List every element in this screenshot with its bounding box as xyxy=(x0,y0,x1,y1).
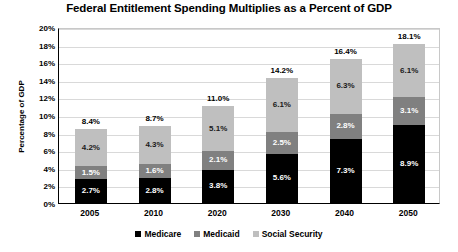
legend-label: Social Security xyxy=(262,230,323,239)
x-axis-tick-label: 2010 xyxy=(144,208,163,218)
bar-stack: 2.8%1.6%4.3% xyxy=(139,126,171,203)
bar-stack: 8.9%3.1%6.1% xyxy=(393,44,425,203)
y-axis-tick-label: 0% xyxy=(43,200,55,209)
bar-segment-social-security[interactable]: 6.1% xyxy=(393,44,425,98)
bar-stack: 7.3%2.8%6.3% xyxy=(330,59,362,203)
y-axis-tick-label: 8% xyxy=(43,129,55,138)
x-axis-tick-label: 2030 xyxy=(271,208,290,218)
bar-segment-value-label: 8.9% xyxy=(400,160,418,168)
y-axis-tick-label: 16% xyxy=(39,59,55,68)
y-axis-tick-label: 4% xyxy=(43,164,55,173)
y-axis-tick-label: 14% xyxy=(39,76,55,85)
bar-series-group: 2.7%1.5%4.2%8.4%2.8%1.6%4.3%8.7%3.8%2.1%… xyxy=(59,29,439,203)
bar-total-label: 14.2% xyxy=(270,67,293,75)
bar-segment-value-label: 7.3% xyxy=(336,167,354,175)
bar-segment-value-label: 2.1% xyxy=(209,156,227,164)
bar-segment-medicare[interactable]: 7.3% xyxy=(330,139,362,203)
y-axis-tick-label: 10% xyxy=(39,112,55,121)
x-axis-tick-label: 2005 xyxy=(80,208,99,218)
bar-column[interactable]: 2.8%1.6%4.3%8.7% xyxy=(139,29,171,203)
bar-segment-social-security[interactable]: 6.3% xyxy=(330,59,362,114)
bar-segment-value-label: 5.6% xyxy=(273,174,291,182)
bar-total-label: 8.4% xyxy=(82,118,100,126)
bar-segment-value-label: 1.5% xyxy=(82,169,100,177)
bar-segment-value-label: 2.8% xyxy=(145,187,163,195)
bar-segment-value-label: 2.5% xyxy=(273,139,291,147)
chart-title: Federal Entitlement Spending Multiplies … xyxy=(0,2,458,14)
bar-segment-social-security[interactable]: 4.3% xyxy=(139,126,171,164)
bar-stack: 5.6%2.5%6.1% xyxy=(266,78,298,203)
bar-stack: 2.7%1.5%4.2% xyxy=(75,129,107,203)
legend-swatch-icon xyxy=(135,231,141,237)
bar-segment-medicaid[interactable]: 3.1% xyxy=(393,97,425,124)
legend-item-social-security[interactable]: Social Security xyxy=(253,230,323,239)
plot-area: 2.7%1.5%4.2%8.4%2.8%1.6%4.3%8.7%3.8%2.1%… xyxy=(58,28,440,204)
stacked-bar-chart: Federal Entitlement Spending Multiplies … xyxy=(0,0,458,252)
legend-label: Medicare xyxy=(144,230,181,239)
bar-segment-value-label: 5.1% xyxy=(209,125,227,133)
bar-segment-medicaid[interactable]: 1.5% xyxy=(75,166,107,179)
legend-label: Medicaid xyxy=(203,230,239,239)
bar-column[interactable]: 8.9%3.1%6.1%18.1% xyxy=(393,29,425,203)
y-axis-tick-label: 20% xyxy=(39,24,55,33)
bar-segment-social-security[interactable]: 5.1% xyxy=(202,106,234,151)
x-axis-tick-label: 2020 xyxy=(208,208,227,218)
y-axis-tick-label: 2% xyxy=(43,182,55,191)
bar-segment-medicare[interactable]: 2.7% xyxy=(75,179,107,203)
bar-segment-value-label: 3.1% xyxy=(400,107,418,115)
legend-item-medicaid[interactable]: Medicaid xyxy=(194,230,239,239)
legend-item-medicare[interactable]: Medicare xyxy=(135,230,181,239)
bar-segment-medicaid[interactable]: 2.8% xyxy=(330,114,362,139)
bar-segment-value-label: 3.8% xyxy=(209,182,227,190)
bar-segment-social-security[interactable]: 4.2% xyxy=(75,129,107,166)
bar-segment-social-security[interactable]: 6.1% xyxy=(266,78,298,132)
bar-segment-medicare[interactable]: 5.6% xyxy=(266,154,298,203)
bar-total-label: 11.0% xyxy=(207,95,229,103)
bar-segment-value-label: 2.7% xyxy=(82,187,100,195)
legend-swatch-icon xyxy=(194,231,200,237)
legend-swatch-icon xyxy=(253,231,259,237)
bar-segment-value-label: 4.2% xyxy=(82,144,100,152)
bar-total-label: 16.4% xyxy=(334,48,357,56)
bar-segment-value-label: 4.3% xyxy=(145,141,163,149)
bar-total-label: 8.7% xyxy=(145,115,163,123)
x-axis-tick-labels: 200520102020203020402050 xyxy=(58,208,440,222)
bar-segment-medicaid[interactable]: 2.5% xyxy=(266,132,298,154)
x-axis-tick-label: 2050 xyxy=(399,208,418,218)
bar-segment-value-label: 1.6% xyxy=(145,167,163,175)
bar-segment-medicaid[interactable]: 2.1% xyxy=(202,151,234,169)
y-axis-tick-label: 6% xyxy=(43,147,55,156)
y-axis-tick-label: 18% xyxy=(39,41,55,50)
bar-segment-value-label: 6.1% xyxy=(273,101,291,109)
bar-segment-value-label: 2.8% xyxy=(336,122,354,130)
bar-column[interactable]: 7.3%2.8%6.3%16.4% xyxy=(330,29,362,203)
bar-segment-medicaid[interactable]: 1.6% xyxy=(139,164,171,178)
bar-stack: 3.8%2.1%5.1% xyxy=(202,106,234,203)
bar-segment-value-label: 6.3% xyxy=(336,82,354,90)
y-axis-tick-label: 12% xyxy=(39,94,55,103)
y-axis-title-text: Percentage of GDP xyxy=(17,80,26,152)
bar-total-label: 18.1% xyxy=(398,33,421,41)
bar-column[interactable]: 3.8%2.1%5.1%11.0% xyxy=(202,29,234,203)
bar-column[interactable]: 5.6%2.5%6.1%14.2% xyxy=(266,29,298,203)
bar-segment-medicare[interactable]: 3.8% xyxy=(202,170,234,203)
y-axis-tick-labels: 20%18%16%14%12%10%8%6%4%2%0% xyxy=(26,28,55,204)
bar-segment-medicare[interactable]: 8.9% xyxy=(393,125,425,203)
bar-segment-value-label: 6.1% xyxy=(400,67,418,75)
x-axis-tick-label: 2040 xyxy=(335,208,354,218)
bar-segment-medicare[interactable]: 2.8% xyxy=(139,178,171,203)
chart-legend: MedicareMedicaidSocial Security xyxy=(0,230,458,239)
bar-column[interactable]: 2.7%1.5%4.2%8.4% xyxy=(75,29,107,203)
